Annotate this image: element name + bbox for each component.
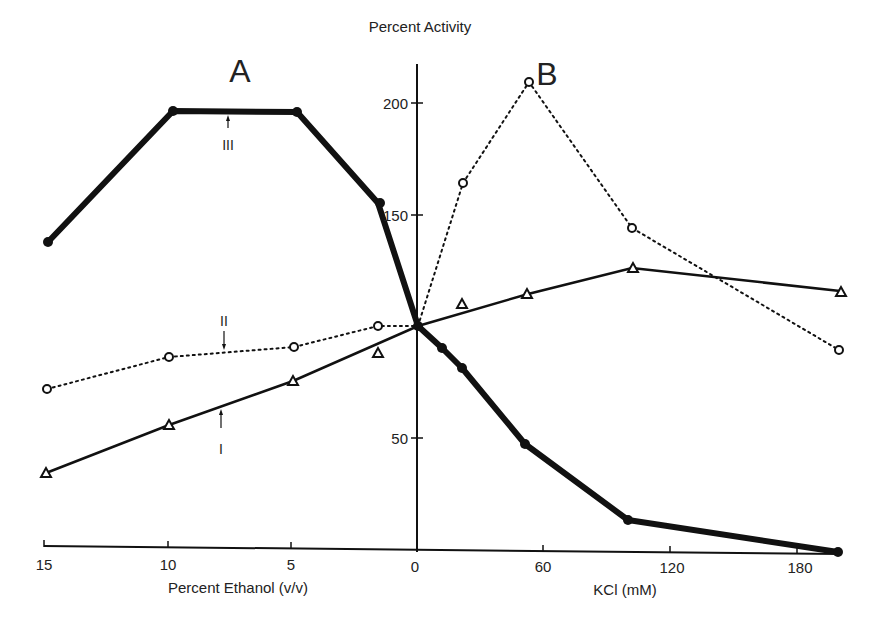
ytick-50: 50: [391, 430, 408, 447]
ytick-150: 150: [383, 207, 408, 224]
x-axis: [44, 546, 840, 554]
activity-chart: Percent Activity A B III II I 200 150 50…: [0, 0, 882, 638]
series-iii: [43, 106, 843, 557]
curve-label-iii: III: [222, 137, 234, 153]
axes: [44, 64, 840, 554]
xtick-5: 5: [287, 556, 295, 573]
series-i: [41, 263, 846, 477]
panel-label-b: B: [536, 56, 557, 92]
xtick-0: 0: [411, 558, 419, 575]
x-left-axis-title: Percent Ethanol (v/v): [168, 579, 308, 596]
xtick-15: 15: [36, 556, 53, 573]
xtick-180: 180: [787, 559, 812, 576]
curve-label-i: I: [219, 441, 223, 457]
xtick-10: 10: [160, 556, 177, 573]
curve-label-arrows: [219, 115, 230, 428]
x-right-axis-title: KCl (mM): [593, 581, 656, 598]
xtick-120: 120: [659, 559, 684, 576]
xtick-60: 60: [535, 558, 552, 575]
panel-label-a: A: [229, 53, 251, 89]
ytick-200: 200: [383, 95, 408, 112]
curve-label-ii: II: [220, 313, 228, 329]
y-axis-title: Percent Activity: [369, 18, 472, 35]
